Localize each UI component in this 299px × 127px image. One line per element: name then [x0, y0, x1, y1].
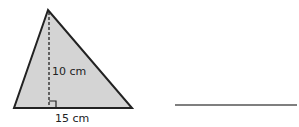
height-label: 10 cm: [52, 65, 86, 78]
triangle-diagram: 10 cm 15 cm: [0, 0, 299, 127]
base-label: 15 cm: [55, 112, 89, 125]
triangle-shape: [14, 10, 132, 108]
